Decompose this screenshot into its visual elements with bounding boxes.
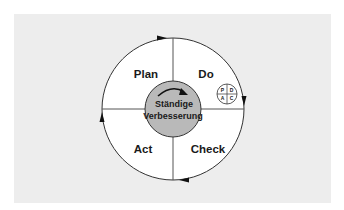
quadrant-label-plan: Plan bbox=[134, 68, 158, 80]
mini-pdca-cycle: P D A C bbox=[217, 84, 237, 104]
quadrant-label-check: Check bbox=[191, 143, 226, 155]
center-label-line2: Verbesserung bbox=[143, 111, 203, 121]
quadrant-label-do: Do bbox=[198, 68, 213, 80]
pdca-diagram: Ständige Verbesserung Plan Do Check Act … bbox=[0, 0, 344, 210]
mini-label-d: D bbox=[230, 87, 234, 93]
mini-label-a: A bbox=[221, 95, 225, 101]
quadrant-label-act: Act bbox=[134, 143, 153, 155]
center-label-line1: Ständige bbox=[155, 99, 193, 109]
mini-label-c: C bbox=[230, 95, 234, 101]
